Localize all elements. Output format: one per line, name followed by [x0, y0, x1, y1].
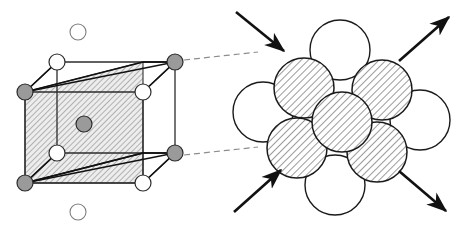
gray-atom-front-top-left — [17, 84, 33, 100]
white-atom-front-bottom-right — [135, 175, 151, 191]
figure-canvas — [0, 0, 456, 231]
gray-atom-back-bottom-right — [167, 145, 183, 161]
white-atom-front-top-right — [135, 84, 151, 100]
close-packed-plane-diagram — [233, 12, 450, 215]
unit-cell-diagram — [17, 24, 183, 220]
gray-atom-front-bottom-left — [17, 175, 33, 191]
white-atom-satellite-below — [70, 204, 86, 220]
arrow-top-right — [399, 17, 449, 61]
gray-atom-body-center — [76, 116, 92, 132]
callout-line-lower — [184, 147, 258, 155]
white-atom-back-top-left — [49, 54, 65, 70]
white-atom-satellite-above — [70, 24, 86, 40]
crystal-structure-figure — [0, 0, 456, 231]
white-atom-back-bottom-left — [49, 145, 65, 161]
gray-atom-back-top-right — [167, 54, 183, 70]
callout-line-upper — [184, 52, 258, 60]
hatched-atom-center — [312, 92, 372, 152]
arrow-bottom-left — [234, 170, 281, 212]
arrow-top-left — [236, 12, 284, 51]
arrow-bottom-right — [399, 171, 446, 211]
